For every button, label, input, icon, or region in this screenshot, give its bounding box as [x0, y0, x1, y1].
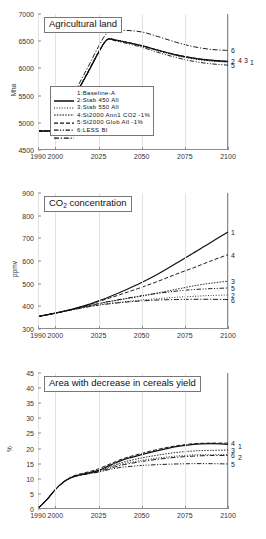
y-tick-mark	[38, 329, 41, 330]
legend-item-label: LESS BI	[83, 127, 108, 133]
gridline-x	[38, 373, 39, 509]
x-tick-label: 2025	[91, 153, 107, 160]
y-axis-label: ppmv	[11, 261, 18, 277]
series-line-4	[38, 443, 228, 508]
x-tick-label: 1990	[30, 332, 46, 339]
x-tick-label: 1990	[30, 153, 46, 160]
y-tick-mark	[38, 373, 41, 374]
panel-title-2: Area with decrease in cereals yield	[44, 376, 201, 392]
x-tick-mark	[55, 147, 56, 150]
series-line-1	[38, 232, 228, 317]
series-end-label-1: 1	[250, 58, 254, 65]
x-tick-label: 2075	[177, 153, 193, 160]
x-tick-label: 2025	[91, 512, 107, 519]
y-tick-label: 800	[22, 212, 38, 219]
y-tick-label: 5000	[18, 119, 38, 126]
y-tick-mark	[38, 68, 41, 69]
y-tick-label: 7000	[18, 11, 38, 18]
gridline-x	[185, 373, 186, 509]
y-tick-mark	[38, 41, 41, 42]
x-tick-mark	[55, 326, 56, 329]
y-tick-mark	[38, 403, 41, 404]
panel-title-1: CO2 concentration	[44, 196, 132, 212]
series-end-label-1: 1	[231, 229, 235, 236]
y-tick-mark	[38, 448, 41, 449]
y-tick-label: 700	[22, 235, 38, 242]
x-tick-label: 2050	[134, 512, 150, 519]
y-tick-label: 500	[22, 280, 38, 287]
x-tick-mark	[142, 147, 143, 150]
gridline-x	[55, 193, 56, 329]
y-tick-mark	[38, 283, 41, 284]
series-end-label-6: 6	[231, 451, 235, 458]
legend-item-label: Stab 550 All	[83, 104, 119, 110]
y-tick-label: 15	[26, 460, 38, 467]
y-tick-mark	[38, 388, 41, 389]
series-line-3	[38, 450, 228, 508]
x-tick-label: 2050	[134, 153, 150, 160]
y-tick-label: 5	[30, 490, 38, 497]
x-tick-label: 2000	[48, 332, 64, 339]
y-tick-mark	[38, 478, 41, 479]
series-end-label-5: 5	[231, 461, 235, 468]
y-tick-label: 40	[26, 385, 38, 392]
x-tick-mark	[228, 326, 229, 329]
x-tick-mark	[99, 506, 100, 509]
series-lines-1	[38, 193, 228, 329]
series-end-label-1: 1	[238, 442, 242, 449]
plot-area-2: 1990200020252050207521000510152025303540…	[38, 373, 228, 509]
series-end-label-5: 5	[231, 62, 235, 69]
gridline-x	[99, 373, 100, 509]
y-tick-mark	[38, 122, 41, 123]
x-tick-label: 2025	[91, 332, 107, 339]
y-tick-label: 4500	[18, 147, 38, 154]
y-tick-mark	[38, 418, 41, 419]
y-axis-label: %	[6, 446, 13, 452]
panel-cereals-yield: % 19902000202520502075210005101520253035…	[0, 359, 266, 539]
y-tick-mark	[38, 95, 41, 96]
legend-item-6: 6: LESS BI	[54, 126, 150, 133]
panel-co2-concentration: ppmv 19902000202520502075210030040050060…	[0, 179, 266, 359]
legend-item-label: Stab 450 All	[83, 97, 119, 103]
y-tick-label: 600	[22, 258, 38, 265]
x-tick-label: 2000	[48, 512, 64, 519]
gridline-x	[228, 14, 229, 150]
x-tick-label: 2100	[220, 332, 236, 339]
x-tick-mark	[185, 147, 186, 150]
y-tick-label: 5500	[18, 92, 38, 99]
panel-agricultural-land: Mha 199020002025205020752100450050005500…	[0, 0, 266, 179]
legend-item-label: St2000 Ann1 CO2 -1%	[83, 112, 150, 118]
legend: 1: Baseline-A2: Stab 450 All3: Stab 550 …	[50, 86, 154, 136]
x-tick-mark	[142, 326, 143, 329]
y-tick-label: 10	[26, 475, 38, 482]
gridline-x	[55, 373, 56, 509]
series-end-label-4: 4	[231, 439, 235, 446]
series-end-label-4: 4	[231, 251, 235, 258]
x-tick-label: 2100	[220, 153, 236, 160]
legend-line-swatch	[54, 97, 74, 103]
y-tick-mark	[38, 14, 41, 15]
x-tick-mark	[228, 506, 229, 509]
y-tick-mark	[38, 193, 41, 194]
x-tick-mark	[185, 326, 186, 329]
legend-item-label: St2000 Glob All -1%	[83, 119, 143, 125]
y-tick-label: 300	[22, 326, 38, 333]
x-tick-mark	[228, 147, 229, 150]
series-line-2	[38, 295, 228, 317]
legend-line-swatch	[54, 127, 74, 133]
y-tick-mark	[38, 493, 41, 494]
y-tick-label: 6500	[18, 38, 38, 45]
y-tick-mark	[38, 238, 41, 239]
plot-area-1: 1990200020252050207521003004005006007008…	[38, 193, 228, 329]
legend-line-swatch	[54, 119, 74, 125]
legend-item-3: 3: Stab 550 All	[54, 104, 150, 111]
series-end-label-4: 4	[238, 57, 242, 64]
legend-line-swatch	[54, 90, 74, 96]
series-lines-2	[38, 373, 228, 509]
y-tick-label: 6000	[18, 65, 38, 72]
series-line-6	[38, 299, 228, 316]
y-tick-mark	[38, 306, 41, 307]
series-line-5	[38, 464, 228, 509]
legend-item-1: 1: Baseline-A	[54, 89, 150, 96]
series-line-5	[38, 288, 228, 317]
